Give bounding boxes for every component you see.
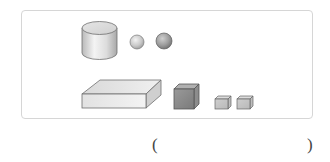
cylinder-shape bbox=[82, 22, 117, 60]
answer-open-paren: ( bbox=[152, 136, 158, 153]
small-cube-shape-1 bbox=[215, 96, 231, 109]
small-sphere-shape bbox=[130, 35, 144, 49]
answer-blank[interactable] bbox=[162, 136, 304, 156]
dark-cube-shape bbox=[174, 84, 199, 109]
small-cube-shape-2 bbox=[237, 96, 253, 109]
medium-sphere-shape bbox=[156, 33, 172, 49]
flat-rectangular-prism-shape bbox=[82, 80, 161, 108]
answer-close-paren: ) bbox=[307, 136, 313, 153]
